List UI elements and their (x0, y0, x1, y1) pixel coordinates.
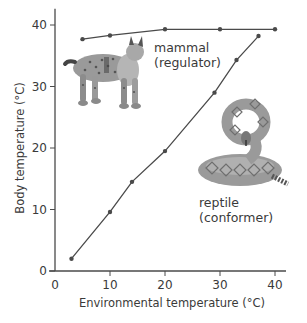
rattlesnake-illustration-icon (198, 99, 288, 186)
x-tick-label: 30 (212, 278, 227, 292)
mammal-data-point (273, 27, 277, 31)
mammal-data-point (108, 33, 112, 37)
y-tick-label: 10 (32, 203, 47, 217)
x-tick-label: 20 (157, 278, 172, 292)
mammal-data-point (163, 27, 167, 31)
reptile-data-point (256, 34, 260, 38)
y-tick-label: 0 (39, 264, 47, 278)
y-axis-title: Body temperature (°C) (13, 82, 27, 213)
chart: 010203040010203040 mammal (regulator) re… (0, 0, 307, 323)
mammal-sublabel: (regulator) (154, 55, 221, 70)
reptile-sublabel: (conformer) (199, 210, 273, 225)
reptile-data-point (234, 58, 238, 62)
mammal-data-point (218, 27, 222, 31)
y-tick-label: 30 (32, 80, 47, 94)
mammal-data-point (80, 37, 84, 41)
x-axis-title: Environmental temperature (°C) (79, 296, 265, 310)
reptile-label: reptile (199, 195, 239, 210)
lynx-illustration-icon (65, 36, 144, 109)
y-tick-label: 40 (32, 18, 47, 32)
reptile-data-point (163, 149, 167, 153)
x-tick-label: 0 (51, 278, 59, 292)
chart-plot: 010203040010203040 mammal (regulator) re… (0, 0, 307, 323)
x-tick-label: 40 (267, 278, 282, 292)
x-tick-label: 10 (102, 278, 117, 292)
reptile-data-point (69, 257, 73, 261)
y-tick-label: 20 (32, 141, 47, 155)
reptile-data-point (108, 210, 112, 214)
reptile-data-point (212, 90, 216, 94)
reptile-data-point (130, 180, 134, 184)
mammal-label: mammal (154, 40, 209, 55)
